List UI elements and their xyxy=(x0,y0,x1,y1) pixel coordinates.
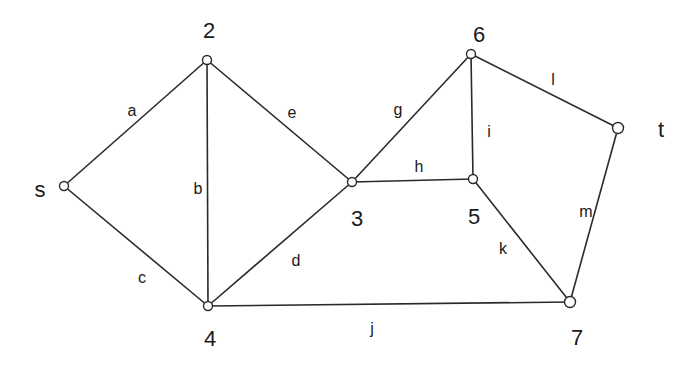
edge-j xyxy=(208,302,570,306)
node-label-t: t xyxy=(658,117,664,142)
edge-label-l: l xyxy=(551,71,555,88)
node-7 xyxy=(565,297,576,308)
edge-k xyxy=(473,179,570,302)
node-label-7: 7 xyxy=(571,325,583,350)
edge-label-d: d xyxy=(292,252,301,269)
node-label-4: 4 xyxy=(204,326,216,351)
edge-b xyxy=(207,60,208,306)
node-label-6: 6 xyxy=(473,22,485,47)
node-s xyxy=(60,182,69,191)
edge-label-i: i xyxy=(487,123,491,140)
node-2 xyxy=(203,56,212,65)
edge-a xyxy=(64,60,207,186)
edge-label-j: j xyxy=(369,320,374,337)
edge-m xyxy=(570,128,618,302)
edge-label-k: k xyxy=(499,240,508,257)
node-t xyxy=(613,123,624,134)
edge-g xyxy=(352,54,471,182)
edge-label-m: m xyxy=(579,203,592,220)
edge-label-e: e xyxy=(288,104,297,121)
edge-h xyxy=(352,179,473,182)
edge-label-g: g xyxy=(394,101,403,118)
edge-i xyxy=(471,54,473,179)
node-label-3: 3 xyxy=(351,206,363,231)
node-label-5: 5 xyxy=(468,204,480,229)
node-5 xyxy=(469,175,478,184)
edge-d xyxy=(208,182,352,306)
network-graph-diagram: abcdeghilmkj s23456t7 xyxy=(0,0,695,366)
edge-label-c: c xyxy=(138,269,146,286)
node-label-s: s xyxy=(35,177,46,202)
node-4 xyxy=(204,302,213,311)
edge-e xyxy=(207,60,352,182)
edge-c xyxy=(64,186,208,306)
node-6 xyxy=(467,50,476,59)
edge-l xyxy=(471,54,618,128)
node-label-2: 2 xyxy=(203,18,215,43)
edge-label-h: h xyxy=(415,158,424,175)
edge-label-a: a xyxy=(128,102,137,119)
edges-group xyxy=(64,54,618,306)
node-3 xyxy=(348,178,357,187)
edge-label-b: b xyxy=(194,180,203,197)
